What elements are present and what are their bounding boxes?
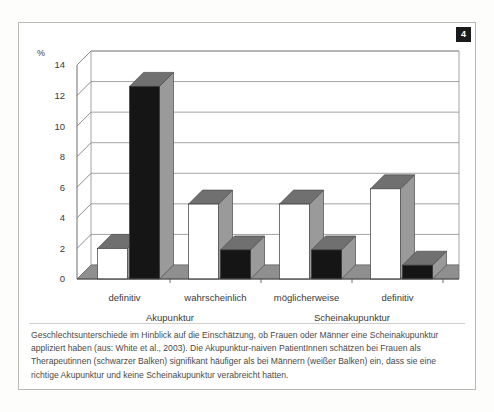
bar-side-face [160,72,174,279]
y-tick-label-4: 4 [60,212,65,223]
y-tick-label-6: 6 [60,182,65,193]
bar-chart-svg: 02468101214definitivwahrscheinlichmöglic… [19,23,475,323]
y-tick-label-0: 0 [60,273,65,284]
figure-container: 4 % 02468101214definitivwahrscheinlichmö… [0,0,494,412]
y-tick-connector-4 [77,204,91,218]
chart-plot-area: % 02468101214definitivwahrscheinlichmögl… [19,23,475,323]
y-tick-connector-6 [77,173,91,187]
x-tick-label-2: möglicherweise [274,292,339,303]
x-tick-label-0: definitiv [108,292,140,303]
x-tick-label-3: definitiv [381,292,413,303]
y-tick-connector-12 [77,82,91,96]
y-tick-label-14: 14 [54,59,65,70]
bar-front-face [189,204,219,279]
y-tick-connector-2 [77,234,91,248]
bar-front-face [221,250,251,279]
y-tick-connector-14 [77,51,91,65]
bar-front-face [312,250,342,279]
group-label-0: Akupunktur [146,312,194,323]
y-tick-label-10: 10 [54,121,65,132]
y-tick-label-2: 2 [60,243,65,254]
x-tick-label-1: wahrscheinlich [183,292,246,303]
figure-caption: Geschlechtsunterschiede im Hinblick auf … [31,329,463,382]
caption-divider [29,323,465,324]
group-label-1: Scheinakupunktur [314,312,390,323]
figure-frame: 4 % 02468101214definitivwahrscheinlichmö… [18,22,476,390]
bar-front-face [130,86,160,279]
bar-front-face [371,189,401,279]
y-tick-connector-10 [77,112,91,126]
y-tick-connector-8 [77,143,91,157]
bar-front-face [280,204,310,279]
y-tick-label-12: 12 [54,90,65,101]
y-tick-label-8: 8 [60,151,65,162]
bar-front-face [98,248,128,279]
bar-0-series-1 [130,72,174,279]
bar-front-face [403,265,433,279]
